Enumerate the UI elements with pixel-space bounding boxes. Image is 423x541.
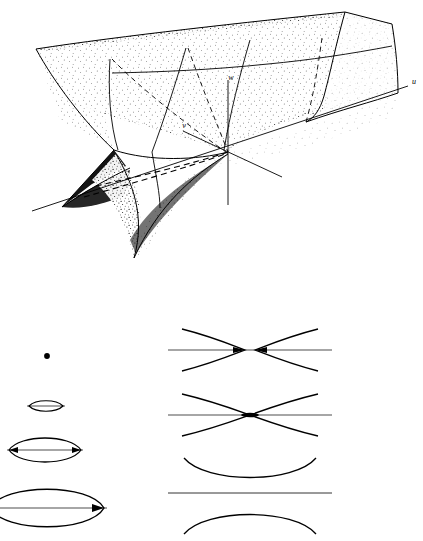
figure-canvas: u v w xyxy=(0,0,423,541)
figure-page: u v w xyxy=(0,0,423,541)
w-axis-label: w xyxy=(228,73,234,82)
section-point xyxy=(44,353,50,359)
v-axis-label: v xyxy=(182,121,186,130)
u-axis-label: u xyxy=(412,77,416,86)
